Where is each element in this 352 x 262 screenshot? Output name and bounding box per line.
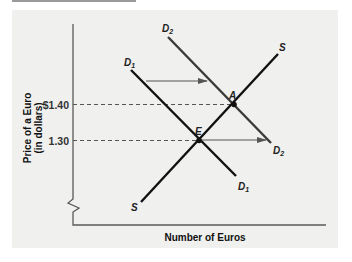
x-axis-title: Number of Euros [164,232,246,243]
d2-top-label: D2 [162,23,173,35]
s-top-label: S [279,42,286,53]
point-a-label: A [228,90,236,101]
y-axis-title: Price of a Euro (in dollars) [22,93,44,164]
d1-top-label: D1 [124,57,135,69]
y-axis-title-line2: (in dollars) [33,102,44,153]
y-axis [68,24,326,225]
point-e-label: E [195,126,202,137]
d1-bottom-label: D1 [238,181,249,193]
supply-demand-chart: A E D2 D1 S D2 D1 S $1.40 1.30 Price of … [0,0,352,262]
axes [68,24,326,225]
demand-curve-d2 [168,37,271,143]
y-tick-1-40: $1.40 [43,99,69,111]
y-axis-title-line1: Price of a Euro [22,93,33,164]
y-tick-1-30: 1.30 [49,135,70,147]
point-a-marker [231,102,237,108]
demand-curve-d1 [131,70,236,176]
d2-bottom-label: D2 [273,145,284,157]
s-bottom-label: S [131,202,138,213]
point-e-marker [196,138,202,144]
